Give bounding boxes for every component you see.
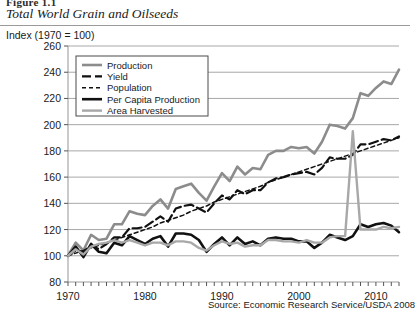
legend-label-population: Population xyxy=(107,82,152,93)
svg-text:180: 180 xyxy=(43,145,61,157)
svg-text:260: 260 xyxy=(43,40,61,52)
svg-text:100: 100 xyxy=(43,250,61,262)
svg-text:240: 240 xyxy=(43,66,61,78)
legend-label-production: Production xyxy=(107,60,152,71)
svg-text:80: 80 xyxy=(49,276,61,288)
svg-text:1980: 1980 xyxy=(133,290,157,302)
svg-text:200: 200 xyxy=(43,119,61,131)
svg-text:1970: 1970 xyxy=(56,290,80,302)
svg-text:160: 160 xyxy=(43,171,61,183)
source-note: Source: Economic Research Service/USDA 2… xyxy=(208,299,415,310)
legend-label-yield: Yield xyxy=(107,71,128,82)
y-axis-ticks: 80100120140160180200220240260 xyxy=(43,40,68,288)
legend-label-area-harvested: Area Harvested xyxy=(107,105,173,116)
legend-label-per-capita-production: Per Capita Production xyxy=(107,94,200,105)
svg-text:220: 220 xyxy=(43,92,61,104)
svg-text:120: 120 xyxy=(43,224,61,236)
chart-legend: ProductionYieldPopulationPer Capita Prod… xyxy=(76,56,208,116)
svg-text:140: 140 xyxy=(43,197,61,209)
